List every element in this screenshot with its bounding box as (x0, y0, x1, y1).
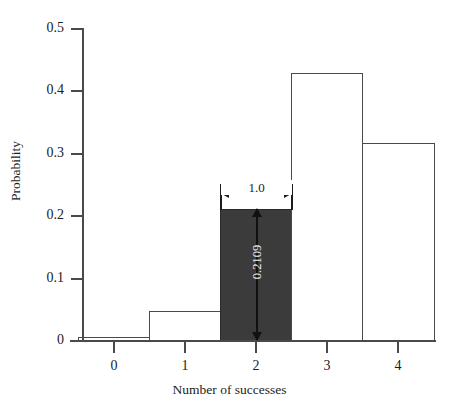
y-tick-0.5: 0.5 (0, 28, 82, 30)
x-tick-mark-2 (255, 342, 257, 353)
bar-category-3 (291, 73, 363, 342)
y-tick-label: 0.5 (24, 21, 64, 35)
bar-category-1 (149, 311, 221, 342)
x-tick-label-0: 0 (99, 358, 129, 374)
y-axis-line (82, 28, 84, 342)
bar-width-annotation: 1.0 (221, 184, 292, 200)
bar-width-label: 1.0 (221, 180, 292, 195)
x-axis-title: Number of successes (0, 382, 459, 398)
plot-area: 0.5 0.4 0.3 0.2 0.1 0 0 1 2 3 (0, 0, 459, 417)
x-tick-mark-3 (326, 342, 328, 353)
y-tick-label: 0.2 (24, 208, 64, 222)
x-tick-label-2: 2 (241, 358, 271, 374)
bar-height-annotation: 0.2109 (249, 209, 265, 340)
bar-category-4 (362, 143, 435, 342)
y-tick-label: 0 (24, 333, 64, 347)
chart-page: 0.5 0.4 0.3 0.2 0.1 0 0 1 2 3 (0, 0, 459, 417)
y-tick-0: 0 (0, 340, 82, 342)
x-tick-label-3: 3 (312, 358, 342, 374)
x-tick-label-1: 1 (170, 358, 200, 374)
arrow-down-icon (252, 332, 262, 341)
x-tick-mark-0 (113, 342, 115, 353)
x-tick-mark-4 (397, 342, 399, 353)
bar-height-label: 0.2109 (250, 230, 264, 294)
arrow-up-icon (252, 208, 262, 217)
y-tick-label: 0.1 (24, 271, 64, 285)
y-tick-0.1: 0.1 (0, 278, 82, 280)
y-tick-0.4: 0.4 (0, 90, 82, 92)
y-tick-label: 0.3 (24, 146, 64, 160)
x-tick-mark-1 (184, 342, 186, 353)
y-tick-label: 0.4 (24, 83, 64, 97)
x-tick-label-4: 4 (383, 358, 413, 374)
y-axis-title: Probability (8, 121, 24, 221)
